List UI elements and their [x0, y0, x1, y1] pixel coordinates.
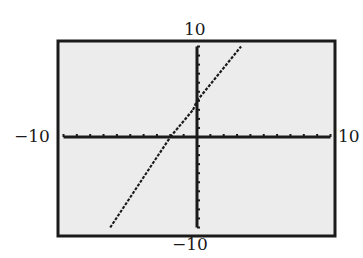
- plot-svg: [0, 0, 363, 258]
- calculator-graph: 10 −10 −10 10: [0, 0, 363, 258]
